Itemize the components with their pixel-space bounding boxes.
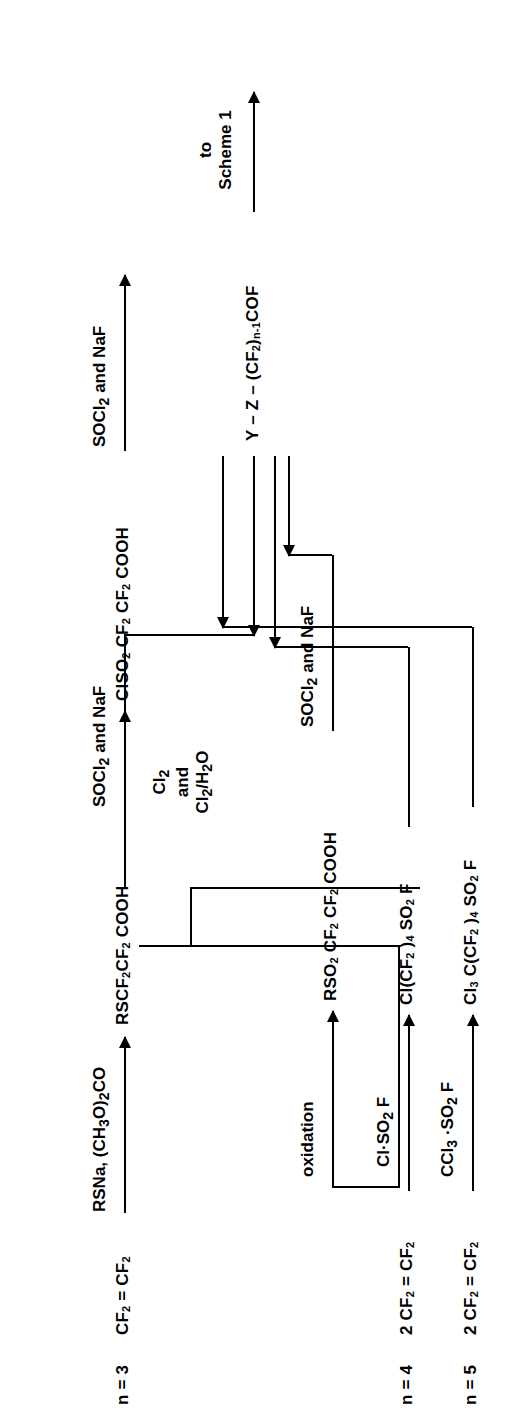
arrow-row3-oxidation <box>332 1011 334 1187</box>
reagent-socl2-naf-row1: SOCl2 and NaF <box>90 686 112 807</box>
arrow-n4-step1 <box>408 1015 410 1191</box>
reagent-oxidation: oxidation <box>298 1101 318 1177</box>
rule-row3-step2 <box>332 555 334 731</box>
connector-row1-to-row2-vertical <box>139 945 192 947</box>
row-label-n5: n = 5 <box>462 1365 481 1405</box>
intermediate-clso2cf2cf2cooh: ClSO2 CF2 CF2 COOH <box>114 527 133 701</box>
join-row3-arrowhead <box>288 456 290 556</box>
reagent-cl-so2f: Cl·SO2 F <box>374 1097 396 1167</box>
join-row5-arrowhead <box>222 456 224 628</box>
intermediate-rscf2cf2cooh: RSCF2CF2 COOH <box>114 885 133 1025</box>
arrow-row2-chlorination <box>124 711 126 887</box>
to-scheme1-line1: to <box>196 142 215 158</box>
to-scheme1-line2: Scheme 1 <box>216 110 235 189</box>
reagent-rsna-dimethylcarbonate: RSNa, (CH3O)2CO <box>90 1067 112 1212</box>
rule-n5-to-product <box>472 627 474 807</box>
connector-row3-loop-vertical-right <box>332 1186 400 1188</box>
reagent-socl2-naf-row2: SOCl2 and NaF <box>90 326 112 447</box>
connector-branch-down-vertical <box>190 887 420 889</box>
reagent-cl2-h2o-line: Cl2/H2O <box>193 751 212 814</box>
join-row5-vertical <box>222 626 472 628</box>
arrow-row2-step2 <box>124 275 126 451</box>
connector-row1-vertical <box>124 634 254 636</box>
product-cl-cf2-4-so2f: Cl(CF2 )4 SO2 F <box>398 883 417 1005</box>
rotated-page-wrapper: n = 3 CF2 = CF2 RSNa, (CH3O)2CO RSCF2CF2… <box>0 0 513 1427</box>
reagent-cl2-line: Cl2 <box>150 770 169 795</box>
connector-row3-loop-vertical-left <box>190 945 400 947</box>
reagent-cl2-and-cl2h2o: Cl2 and Cl2/H2O <box>150 697 216 867</box>
reactant-tetrafluoroethylene-n4: 2 CF2 = CF2 <box>398 1242 417 1335</box>
row-label-n4: n = 4 <box>398 1365 417 1405</box>
reagent-socl2-naf-row3: SOCl2 and NaF <box>298 606 320 727</box>
product-node: Y – Z – (CF2)n-1COF <box>244 285 263 441</box>
rule-n4-to-product <box>408 647 410 827</box>
product-cl3c-cf2-4-so2f: Cl3 C(CF2 )4 SO2 F <box>462 860 481 1005</box>
connector-row1-arrowhead <box>253 456 255 636</box>
intermediate-rso2cf2cf2cooh: RSO2 CF2 CF2 COOH <box>322 832 341 1001</box>
reaction-scheme-figure: n = 3 CF2 = CF2 RSNa, (CH3O)2CO RSCF2CF2… <box>0 0 513 1427</box>
label-to-scheme1: to Scheme 1 <box>196 91 236 209</box>
row-label-n3: n = 3 <box>114 1365 133 1405</box>
reagent-ccl3-so2f: CCl3 ·SO2 F <box>438 1082 460 1177</box>
connector-row1-to-row2-horizontal <box>190 887 192 947</box>
arrow-n3-step1 <box>124 1037 126 1213</box>
reactant-tetrafluoroethylene-n3: CF2 = CF2 <box>114 1256 133 1335</box>
arrow-n5-step1 <box>472 1015 474 1191</box>
join-row4-vertical <box>274 646 408 648</box>
join-row4-arrowhead <box>274 456 276 648</box>
arrow-to-scheme1 <box>253 92 255 212</box>
reactant-tetrafluoroethylene-n5: 2 CF2 = CF2 <box>462 1242 481 1335</box>
reagent-and-line: and <box>173 767 192 797</box>
